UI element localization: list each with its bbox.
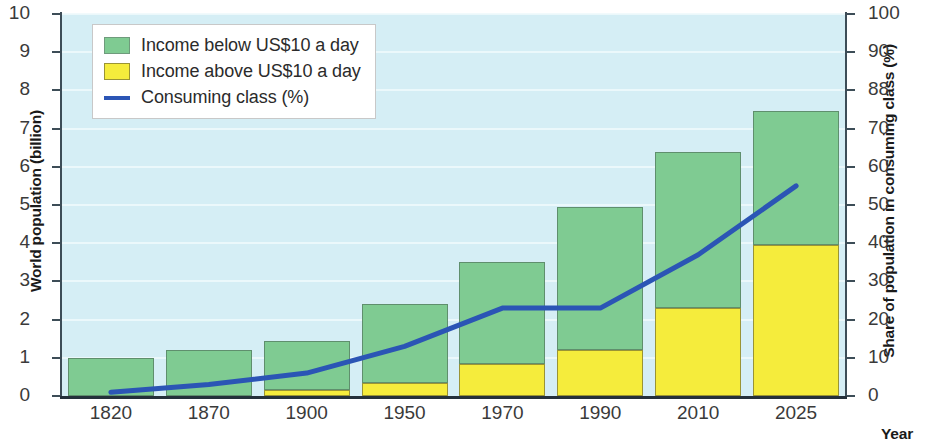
y-axis-left-tick-label: 3 xyxy=(0,270,30,289)
y-axis-left-tick-mark xyxy=(52,13,60,15)
y-axis-left-tick-label: 8 xyxy=(0,79,30,98)
y-axis-right-tick-mark xyxy=(847,242,855,244)
y-axis-right-tick-label: 0 xyxy=(868,385,914,404)
y-axis-left-tick-mark xyxy=(52,166,60,168)
y-axis-right-tick: 50 xyxy=(868,194,914,213)
y-axis-left-tick-mark xyxy=(52,357,60,359)
y-axis-right-tick-label: 20 xyxy=(868,309,914,328)
x-axis-tick-label: 1950 xyxy=(356,402,454,424)
legend-label-income-below: Income below US$10 a day xyxy=(141,35,359,56)
y-axis-right-tick-label: 88 xyxy=(868,79,914,98)
y-axis-left-tick-mark xyxy=(52,395,60,397)
y-axis-right-tick-mark xyxy=(847,204,855,206)
y-axis-right-tick-label: 30 xyxy=(868,270,914,289)
x-axis-tick-label: 1900 xyxy=(258,402,356,424)
y-axis-right-tick-label: 60 xyxy=(868,156,914,175)
consuming-class-line-path xyxy=(111,186,796,392)
x-axis-tick-label: 2010 xyxy=(649,402,747,424)
y-axis-left-tick-label: 5 xyxy=(0,194,30,213)
y-axis-left-tick-mark xyxy=(52,319,60,321)
y-axis-left-tick-label: 4 xyxy=(0,232,30,251)
y-axis-right-tick-label: 10 xyxy=(868,347,914,366)
legend-item-income-below: Income below US$10 a day xyxy=(104,32,361,58)
legend-label-consuming-class: Consuming class (%) xyxy=(141,87,309,108)
y-axis-left-tick-mark xyxy=(52,51,60,53)
y-axis-right-tick: 60 xyxy=(868,156,914,175)
x-axis-tick-label: 1820 xyxy=(62,402,160,424)
green-square-swatch-icon xyxy=(104,37,130,54)
y-axis-right-tick: 100 xyxy=(868,3,914,22)
y-axis-left-tick-label: 2 xyxy=(0,309,30,328)
y-axis-left-tick-label: 6 xyxy=(0,156,30,175)
x-axis-line xyxy=(60,396,847,399)
y-axis-right-tick: 88 xyxy=(868,79,914,98)
y-axis-right-tick: 30 xyxy=(868,270,914,289)
y-axis-right-tick: 40 xyxy=(868,232,914,251)
y-axis-right-tick-mark xyxy=(847,357,855,359)
blue-line-swatch-icon xyxy=(104,89,130,106)
y-axis-right-tick: 70 xyxy=(868,118,914,137)
x-axis-tick-label: 2025 xyxy=(747,402,845,424)
y-axis-left-tick-mark xyxy=(52,242,60,244)
y-axis-right-tick-label: 90 xyxy=(868,41,914,60)
y-axis-right-tick: 10 xyxy=(868,347,914,366)
y-axis-right-tick-mark xyxy=(847,395,855,397)
y-axis-right-tick-mark xyxy=(847,280,855,282)
x-axis-tick-label: 1970 xyxy=(454,402,552,424)
y-axis-left-tick-label: 7 xyxy=(0,118,30,137)
y-axis-right-tick-mark xyxy=(847,13,855,15)
x-axis-title: Year xyxy=(0,425,913,443)
legend-item-income-above: Income above US$10 a day xyxy=(104,58,361,84)
legend-item-consuming-class: Consuming class (%) xyxy=(104,84,361,110)
legend-label-income-above: Income above US$10 a day xyxy=(141,61,361,82)
y-axis-right-tick-mark xyxy=(847,166,855,168)
y-axis-left-tick-mark xyxy=(52,128,60,130)
y-axis-right-tick-label: 50 xyxy=(868,194,914,213)
y-axis-right-tick-mark xyxy=(847,89,855,91)
x-axis-tick-label: 1870 xyxy=(160,402,258,424)
y-axis-right-tick-mark xyxy=(847,51,855,53)
x-axis-tick-label: 1990 xyxy=(551,402,649,424)
y-axis-left-tick-mark xyxy=(52,89,60,91)
y-axis-left-tick-label: 9 xyxy=(0,41,30,60)
y-axis-right-tick: 20 xyxy=(868,309,914,328)
y-axis-right-tick-mark xyxy=(847,319,855,321)
y-axis-right-tick-mark xyxy=(847,128,855,130)
y-axis-left-tick-mark xyxy=(52,280,60,282)
y-axis-left-tick-label: 10 xyxy=(0,3,30,22)
y-axis-right-tick-label: 40 xyxy=(868,232,914,251)
y-axis-right-tick-label: 70 xyxy=(868,118,914,137)
chart-legend: Income below US$10 a day Income above US… xyxy=(92,24,376,119)
y-axis-right-tick: 0 xyxy=(868,385,914,404)
y-axis-left-tick-label: 0 xyxy=(0,385,30,404)
y-axis-right-tick-label: 100 xyxy=(868,3,914,22)
y-axis-right-tick: 90 xyxy=(868,41,914,60)
chart-figure: World population (billion) Share of popu… xyxy=(0,0,925,448)
y-axis-left-tick-label: 1 xyxy=(0,347,30,366)
yellow-square-swatch-icon xyxy=(104,63,130,80)
y-axis-left-tick-mark xyxy=(52,204,60,206)
